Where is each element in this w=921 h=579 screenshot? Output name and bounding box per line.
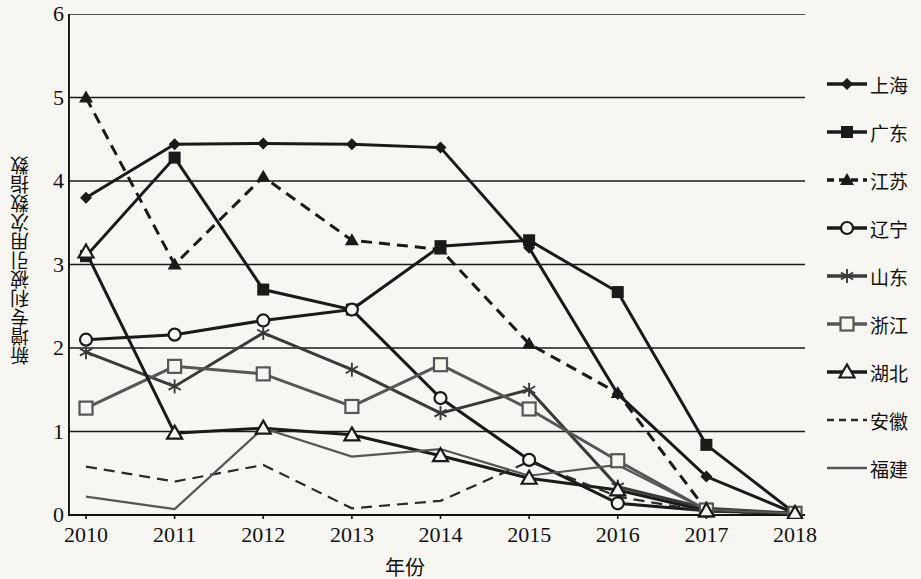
legend-label: 辽宁 [868,215,908,242]
legend-item-辽宁[interactable]: 辽宁 [826,204,921,252]
data-point-diamond [257,137,269,149]
legend-label: 广东 [868,119,908,146]
chart-legend: 上海广东江苏辽宁山东浙江湖北安徽福建 [826,60,921,492]
legend-key-icon [826,122,868,142]
chart-figure: 新增专利被引用次数指数 0123456 20102011201220132014… [0,0,921,579]
data-point-square-open [434,358,447,371]
legend-key-icon [826,266,868,286]
x-axis-tick-labels: 201020112012201320142015201620172018 [0,522,921,554]
plot-area [68,14,805,515]
x-axis-tick: 2013 [330,522,374,548]
data-point-asterisk [169,379,181,393]
x-axis-tick: 2016 [596,522,640,548]
data-point-square-open [611,454,624,467]
legend-label: 山东 [868,263,908,290]
legend-label: 福建 [868,455,908,482]
x-axis-tick: 2018 [773,522,817,548]
data-point-square-open [523,402,536,415]
data-point-triangle [79,91,93,103]
legend-item-广东[interactable]: 广东 [826,108,921,156]
legend-item-安徽[interactable]: 安徽 [826,396,921,444]
x-axis-tick: 2011 [153,522,196,548]
data-point-square-open [345,400,358,413]
y-axis-tick: 3 [24,254,64,276]
y-axis-tick: 2 [24,337,64,359]
data-point-square [257,284,269,296]
data-point-square [841,126,853,138]
y-axis-tick: 4 [24,170,64,192]
legend-label: 安徽 [868,407,908,434]
data-point-circle-open [612,497,624,509]
data-point-square [169,152,181,164]
data-point-triangle [256,170,270,182]
legend-key-icon [826,458,868,478]
legend-key-icon [826,410,868,430]
legend-label: 上海 [868,71,908,98]
x-axis-tick: 2010 [64,522,108,548]
data-point-square-open [257,367,270,380]
legend-item-江苏[interactable]: 江苏 [826,156,921,204]
data-point-square [700,439,712,451]
data-point-square-open [80,402,93,415]
y-axis-tick: 6 [24,3,64,25]
chart-canvas [68,14,805,519]
data-point-diamond [841,78,853,90]
data-point-circle-open [257,314,269,326]
data-point-asterisk [80,345,92,359]
data-point-circle-open [841,222,853,234]
data-point-square-open [168,360,181,373]
data-point-diamond [346,138,358,150]
data-point-circle-open [523,454,535,466]
data-point-circle-open [169,329,181,341]
legend-item-山东[interactable]: 山东 [826,252,921,300]
data-point-square [612,286,624,298]
data-point-circle-open [80,334,92,346]
legend-key-icon [826,362,868,382]
legend-key-icon [826,314,868,334]
x-axis-tick: 2015 [507,522,551,548]
data-point-square-open [841,318,854,331]
legend-item-福建[interactable]: 福建 [826,444,921,492]
x-axis-tick: 2017 [684,522,728,548]
series-line-浙江 [86,365,795,514]
legend-key-icon [826,218,868,238]
x-axis-label-text: 年份 [385,556,425,579]
legend-item-上海[interactable]: 上海 [826,60,921,108]
data-point-square [523,234,535,246]
y-axis-tick: 1 [24,421,64,443]
legend-item-浙江[interactable]: 浙江 [826,300,921,348]
data-point-triangle [168,258,182,270]
series-line-湖北 [86,252,795,513]
data-point-circle-open [346,304,358,316]
y-axis-tick-labels: 0123456 [20,0,64,530]
data-point-asterisk [257,326,269,340]
x-axis-tick: 2012 [241,522,285,548]
x-axis-label: 年份 [0,552,810,579]
y-axis-tick: 5 [24,87,64,109]
legend-key-icon [826,170,868,190]
data-point-circle-open [435,392,447,404]
legend-item-湖北[interactable]: 湖北 [826,348,921,396]
legend-label: 浙江 [868,311,908,338]
x-axis-tick: 2014 [419,522,463,548]
legend-label: 湖北 [868,359,908,386]
data-point-asterisk [346,363,358,377]
legend-label: 江苏 [868,167,908,194]
legend-key-icon [826,74,868,94]
